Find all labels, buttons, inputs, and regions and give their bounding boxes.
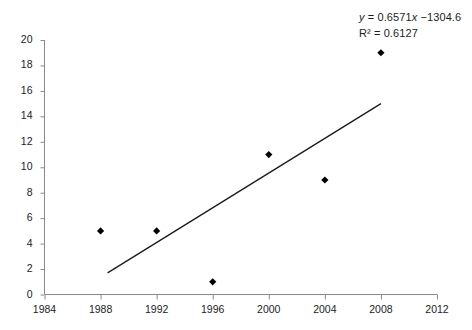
y-tick-label: 20 xyxy=(7,33,33,45)
y-tick-label: 18 xyxy=(7,58,33,70)
scatter-chart: y = 0.6571x −1304.6 R² = 0.6127 02468101… xyxy=(0,0,472,330)
y-tick-label: 14 xyxy=(7,109,33,121)
x-tick-label: 1992 xyxy=(137,303,177,315)
plot-area xyxy=(0,0,472,330)
x-tick-label: 1984 xyxy=(25,303,65,315)
data-point-marker xyxy=(265,151,272,158)
x-tick-label: 1996 xyxy=(193,303,233,315)
y-tick-label: 4 xyxy=(7,237,33,249)
data-point-marker xyxy=(153,227,160,234)
data-point-marker xyxy=(97,227,104,234)
x-tick-label: 1988 xyxy=(81,303,121,315)
x-tick-label: 2008 xyxy=(361,303,401,315)
data-point-marker xyxy=(377,49,384,56)
x-axis-ticks xyxy=(45,295,438,300)
y-tick-label: 2 xyxy=(7,262,33,274)
y-tick-label: 16 xyxy=(7,84,33,96)
data-point-marker xyxy=(209,278,216,285)
y-tick-label: 12 xyxy=(7,135,33,147)
y-tick-label: 0 xyxy=(7,288,33,300)
x-tick-label: 2012 xyxy=(417,303,457,315)
x-tick-label: 2004 xyxy=(305,303,345,315)
data-point-marker xyxy=(321,176,328,183)
trendline xyxy=(108,104,381,273)
y-tick-label: 8 xyxy=(7,186,33,198)
y-tick-label: 10 xyxy=(7,160,33,172)
y-tick-label: 6 xyxy=(7,211,33,223)
x-tick-label: 2000 xyxy=(249,303,289,315)
y-axis-ticks xyxy=(41,41,45,296)
data-point-markers xyxy=(97,49,385,285)
